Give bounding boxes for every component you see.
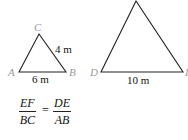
vertex-label-c: C — [34, 22, 41, 33]
fraction-numerator: EF — [19, 97, 36, 112]
fraction-numerator: DE — [53, 97, 71, 112]
vertex-label-b: B — [69, 67, 76, 78]
side-label-cb: 4 m — [55, 44, 72, 55]
equals-sign: = — [42, 104, 49, 116]
fraction-denominator: AB — [55, 112, 70, 126]
side-label-df: 10 m — [127, 75, 149, 86]
fraction-ef-over-bc: EF BC — [19, 97, 36, 126]
similar-triangles-diagram: C 4 m A 6 m B D 10 m I EF BC = DE AB — [0, 0, 188, 140]
vertex-label-f: I — [185, 67, 188, 78]
vertex-label-d: D — [90, 67, 98, 78]
fraction-de-over-ab: DE AB — [53, 97, 71, 126]
vertex-label-a: A — [8, 67, 15, 78]
large-triangle-def — [101, 1, 183, 72]
side-label-ab: 6 m — [32, 74, 49, 85]
fraction-denominator: BC — [20, 112, 35, 126]
